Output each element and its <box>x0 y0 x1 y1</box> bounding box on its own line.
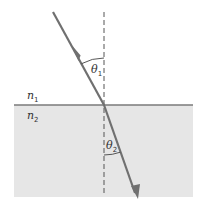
label-n1: n1 <box>27 90 39 104</box>
refraction-diagram <box>0 0 205 215</box>
label-n2: n2 <box>27 110 39 124</box>
label-theta2: θ2 <box>106 140 117 154</box>
label-theta1: θ1 <box>91 64 102 78</box>
